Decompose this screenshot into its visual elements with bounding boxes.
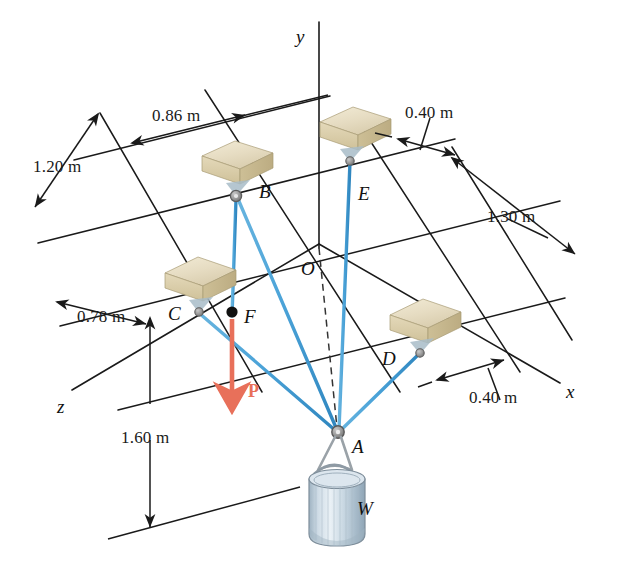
cable-d-to-a — [340, 353, 420, 431]
point-f-dot — [226, 306, 237, 317]
dim-040-bottom-line — [437, 360, 504, 380]
dim-130-line — [452, 158, 575, 254]
point-label-a: A — [352, 436, 364, 458]
cable-e-to-a — [339, 162, 350, 429]
ring-a-assembly — [318, 426, 352, 470]
z-axis-label: z — [57, 396, 64, 418]
dim-label-160: 1.60 m — [121, 428, 169, 448]
point-label-e: E — [358, 183, 370, 205]
force-label-p: P — [248, 381, 259, 402]
grid-line-x1 — [74, 96, 330, 160]
dim-label-040-top: 0.40 m — [405, 103, 453, 123]
weight-label-w: W — [357, 498, 373, 520]
dim-160-ext-bottom — [108, 487, 300, 539]
dim-label-078: 0.78 m — [77, 307, 125, 327]
dim-130-group — [452, 158, 575, 254]
y-axis-label: y — [296, 26, 304, 48]
cable-c-to-a — [199, 313, 336, 431]
block-d — [390, 299, 461, 357]
dim-label-040-bottom: 0.40 m — [469, 388, 517, 408]
dim-label-130: 1.30 m — [487, 207, 535, 227]
dim-label-120: 1.20 m — [33, 157, 81, 177]
dim-040-bottom-ext — [418, 382, 432, 387]
vertical-reference-dashed — [319, 248, 337, 428]
point-label-d: D — [382, 348, 396, 370]
point-label-f: F — [244, 306, 256, 328]
ring-c — [195, 308, 203, 316]
figure-canvas — [0, 0, 632, 575]
point-label-b: B — [259, 181, 271, 203]
ring-d — [416, 349, 424, 357]
statics-figure: y x z O A B C D E F 0.86 m 1.20 m 0.78 m… — [0, 0, 632, 575]
cable-b-to-f — [232, 198, 236, 316]
x-axis-label: x — [566, 381, 574, 403]
point-label-c: C — [168, 303, 181, 325]
coordinate-axes — [72, 22, 560, 390]
point-label-o: O — [301, 258, 315, 280]
dim-086-ext-right — [242, 95, 328, 116]
dim-label-086: 0.86 m — [152, 106, 200, 126]
ring-e — [346, 157, 354, 165]
